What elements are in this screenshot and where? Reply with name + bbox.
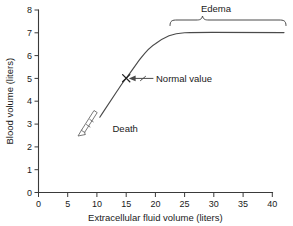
x-tick-label-0: 0 bbox=[36, 199, 41, 209]
x-tick-label-25: 25 bbox=[180, 199, 190, 209]
x-tick-label-15: 15 bbox=[121, 199, 131, 209]
y-tick-label-5: 5 bbox=[27, 74, 32, 84]
x-tick-label-30: 30 bbox=[209, 199, 219, 209]
y-tick-label-2: 2 bbox=[27, 142, 32, 152]
x-tick-label-35: 35 bbox=[238, 199, 248, 209]
edema-bracket bbox=[170, 16, 286, 26]
y-tick-label-7: 7 bbox=[27, 28, 32, 38]
y-tick-label-0: 0 bbox=[27, 188, 32, 198]
death-annotation-arrow bbox=[78, 111, 97, 137]
y-tick-label-8: 8 bbox=[27, 5, 32, 15]
x-axis-ticks bbox=[39, 193, 273, 198]
x-tick-label-10: 10 bbox=[92, 199, 102, 209]
normal-value-marker bbox=[123, 75, 130, 82]
y-tick-label-1: 1 bbox=[27, 165, 32, 175]
chart-figure: 0 1 2 3 4 5 6 7 8 0 5 10 15 20 bbox=[0, 0, 293, 226]
normal-value-annotation-leader bbox=[129, 76, 153, 82]
axes-group bbox=[39, 10, 273, 193]
y-axis-ticks bbox=[35, 10, 39, 193]
x-tick-label-40: 40 bbox=[267, 199, 277, 209]
x-axis-tick-labels: 0 5 10 15 20 25 30 35 40 bbox=[36, 199, 277, 209]
y-axis-title: Blood volume (liters) bbox=[4, 58, 15, 145]
x-axis-title: Extracellular fluid volume (liters) bbox=[88, 212, 223, 223]
x-tick-label-20: 20 bbox=[150, 199, 160, 209]
y-axis-tick-labels: 0 1 2 3 4 5 6 7 8 bbox=[27, 5, 32, 198]
y-tick-label-3: 3 bbox=[27, 119, 32, 129]
y-tick-label-4: 4 bbox=[27, 96, 32, 106]
normal-value-arrowhead bbox=[129, 76, 136, 82]
y-tick-label-6: 6 bbox=[27, 51, 32, 61]
chart-svg: 0 1 2 3 4 5 6 7 8 0 5 10 15 20 bbox=[0, 0, 293, 226]
x-tick-label-5: 5 bbox=[65, 199, 70, 209]
normal-value-label: Normal value bbox=[156, 73, 212, 84]
edema-label: Edema bbox=[201, 3, 232, 14]
death-label: Death bbox=[113, 123, 138, 134]
